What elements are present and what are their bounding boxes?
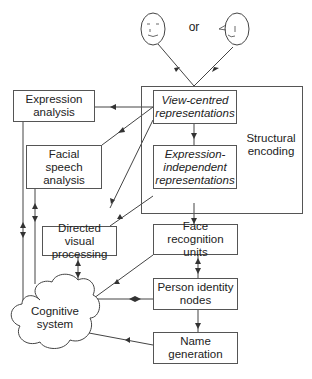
expression-independent-representations-box: Expression- independent representations <box>153 145 237 189</box>
view-centred-representations-box: View-centred representations <box>153 90 237 124</box>
facial-speech-analysis-box: Facial speech analysis <box>26 145 102 189</box>
arrow-profile-face-to-view <box>194 47 233 86</box>
profile-face-icon <box>225 13 249 45</box>
or-label: or <box>184 21 204 34</box>
directed-visual-processing-box: Directed visual processing <box>42 226 117 256</box>
structural-encoding-label: Structural encoding <box>238 132 304 158</box>
cognitive-system-label: Cognitive system <box>20 305 90 331</box>
name-generation-box: Name generation <box>153 332 238 364</box>
front-face-icon <box>141 13 165 45</box>
arrow-front-face-to-view <box>158 44 194 86</box>
face-recognition-units-box: Face recognition units <box>153 224 238 255</box>
expression-analysis-box: Expression analysis <box>13 90 95 122</box>
person-identity-nodes-box: Person identity nodes <box>153 278 238 310</box>
